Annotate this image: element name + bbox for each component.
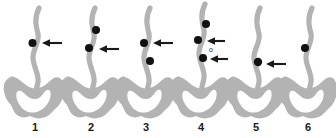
stone-marker bbox=[301, 44, 309, 52]
stone-marker bbox=[146, 57, 154, 65]
stone-marker bbox=[202, 20, 210, 28]
ureteric-stone-figure: 1 2 bbox=[0, 0, 336, 138]
panel-number-label: 6 bbox=[305, 121, 311, 133]
panel-number-label: 5 bbox=[253, 121, 259, 133]
stone-marker bbox=[85, 44, 93, 52]
stone-annotation-label: o bbox=[209, 46, 213, 53]
stone-marker bbox=[92, 26, 100, 34]
panel-number-label: 3 bbox=[143, 121, 149, 133]
stone-marker bbox=[194, 36, 202, 44]
stone-marker bbox=[140, 39, 148, 47]
stone-marker bbox=[199, 54, 207, 62]
panel-number-label: 1 bbox=[32, 121, 38, 133]
figure-background bbox=[0, 0, 336, 138]
stone-marker bbox=[254, 58, 262, 66]
panel-number-label: 4 bbox=[198, 121, 205, 133]
stone-marker bbox=[29, 39, 37, 47]
panel-number-label: 2 bbox=[88, 121, 94, 133]
figure-canvas: 1 2 bbox=[0, 0, 336, 138]
